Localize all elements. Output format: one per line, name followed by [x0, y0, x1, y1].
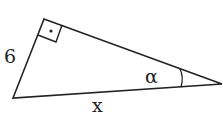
label-left-side: 6	[4, 45, 16, 67]
angle-arc	[180, 69, 182, 87]
label-bottom-side: x	[92, 94, 103, 115]
triangle-diagram: 6 x α	[0, 0, 223, 115]
label-angle: α	[145, 65, 158, 87]
right-angle-dot	[49, 29, 52, 32]
triangle	[13, 19, 222, 98]
right-angle-marker	[38, 25, 62, 42]
